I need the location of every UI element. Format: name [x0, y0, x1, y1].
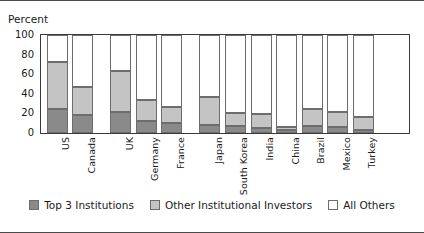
- bar-germany: [136, 35, 157, 133]
- x-tick-label: China: [290, 137, 301, 164]
- bar-segment: [136, 35, 157, 100]
- chart-legend: Top 3 InstitutionsOther Institutional In…: [0, 199, 424, 211]
- bar-segment: [110, 71, 131, 112]
- x-tick-label: Germany: [149, 137, 160, 181]
- x-tick-label: India: [264, 137, 275, 161]
- x-tick-label: Mexico: [341, 137, 352, 170]
- bar-segment: [47, 109, 68, 134]
- legend-swatch-icon: [150, 200, 160, 210]
- y-tick-label: 40: [6, 87, 34, 98]
- legend-swatch-icon: [328, 200, 338, 210]
- bar-segment: [199, 125, 220, 133]
- bar-china: [276, 35, 297, 133]
- y-tick-label: 20: [6, 107, 34, 118]
- plot-area: [40, 34, 410, 134]
- bar-segment: [47, 35, 68, 62]
- x-tick-label: Japan: [213, 137, 224, 164]
- bar-segment: [327, 112, 348, 127]
- bar-segment: [302, 35, 323, 109]
- bar-segment: [353, 130, 374, 133]
- bar-segment: [110, 35, 131, 71]
- bar-segment: [225, 113, 246, 126]
- bar-segment: [276, 130, 297, 133]
- legend-item[interactable]: All Others: [328, 199, 395, 211]
- bar-segment: [199, 97, 220, 125]
- bar-segment: [136, 121, 157, 133]
- bar-segment: [161, 123, 182, 133]
- bar-segment: [72, 115, 93, 133]
- bar-segment: [251, 114, 272, 128]
- bar-segment: [353, 117, 374, 130]
- legend-label: Other Institutional Investors: [165, 199, 312, 211]
- bar-segment: [302, 126, 323, 133]
- bar-segment: [47, 62, 68, 108]
- y-tick-label: 80: [6, 48, 34, 59]
- bar-segment: [251, 35, 272, 114]
- bar-segment: [136, 100, 157, 122]
- x-tick-label: Canada: [86, 137, 97, 173]
- legend-item[interactable]: Other Institutional Investors: [150, 199, 312, 211]
- x-tick-label: South Korea: [238, 137, 249, 195]
- bar-segment: [276, 35, 297, 127]
- y-axis-title: Percent: [8, 13, 48, 25]
- legend-label: Top 3 Institutions: [44, 199, 134, 211]
- legend-item[interactable]: Top 3 Institutions: [29, 199, 134, 211]
- bar-segment: [72, 35, 93, 87]
- legend-swatch-icon: [29, 200, 39, 210]
- bar-france: [161, 35, 182, 133]
- bar-segment: [110, 112, 131, 133]
- bar-canada: [72, 35, 93, 133]
- bar-segment: [199, 35, 220, 97]
- bar-brazil: [302, 35, 323, 133]
- bar-south-korea: [225, 35, 246, 133]
- figure-chart: Percent 020406080100 USCanadaUKGermanyFr…: [0, 0, 424, 233]
- bar-segment: [225, 35, 246, 113]
- bar-segment: [302, 109, 323, 126]
- x-tick-label: France: [175, 137, 186, 169]
- bar-india: [251, 35, 272, 133]
- y-tick-label: 0: [6, 127, 34, 138]
- y-tick-label: 60: [6, 68, 34, 79]
- bar-turkey: [353, 35, 374, 133]
- bar-segment: [353, 35, 374, 117]
- bar-segment: [251, 128, 272, 133]
- bar-mexico: [327, 35, 348, 133]
- legend-label: All Others: [343, 199, 395, 211]
- bar-segment: [161, 35, 182, 107]
- bar-japan: [199, 35, 220, 133]
- x-tick-label: US: [60, 137, 71, 150]
- bar-segment: [72, 87, 93, 115]
- bar-segment: [161, 107, 182, 124]
- bar-us: [47, 35, 68, 133]
- x-tick-label: Brazil: [315, 137, 326, 164]
- bar-segment: [327, 35, 348, 112]
- bar-segment: [225, 126, 246, 133]
- y-tick-label: 100: [6, 29, 34, 40]
- x-tick-label: UK: [124, 137, 135, 150]
- bar-segment: [327, 127, 348, 133]
- bar-uk: [110, 35, 131, 133]
- x-tick-label: Turkey: [366, 137, 377, 168]
